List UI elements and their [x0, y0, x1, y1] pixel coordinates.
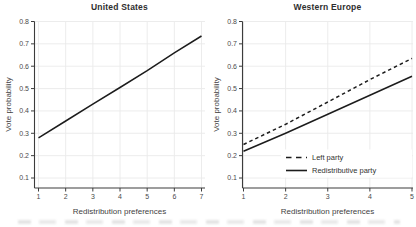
x-axis-label: Redistribution preferences — [34, 206, 205, 217]
y-tick-label: 0.6 — [227, 63, 237, 70]
plot-canvas-united-states: 12345670.10.20.30.40.50.60.70.8 — [0, 0, 208, 227]
legend-label: Redistributive party — [312, 166, 376, 175]
x-tick-label: 2 — [64, 193, 68, 200]
panel-united-states: 12345670.10.20.30.40.50.60.70.8 United S… — [0, 0, 208, 227]
y-tick-label: 0.1 — [227, 174, 237, 181]
panel-western-europe: Left partyRedistributive party123450.10.… — [208, 0, 416, 227]
x-tick-label: 6 — [172, 193, 176, 200]
x-tick-label: 3 — [326, 193, 330, 200]
x-axis-label: Redistribution preferences — [242, 206, 413, 217]
panel-title-united-states: United States — [34, 1, 205, 13]
y-tick-label: 0.6 — [19, 63, 29, 70]
y-tick-label: 0.1 — [19, 174, 29, 181]
y-tick-label: 0.4 — [19, 107, 29, 114]
x-tick-label: 1 — [37, 193, 41, 200]
x-tick-label: 3 — [91, 193, 95, 200]
two-panel-line-chart-figure: 12345670.10.20.30.40.50.60.70.8 United S… — [0, 0, 416, 227]
y-tick-label: 0.8 — [19, 18, 29, 25]
x-tick-label: 4 — [368, 193, 372, 200]
plot-canvas-western-europe: Left partyRedistributive party123450.10.… — [208, 0, 416, 227]
y-tick-label: 0.7 — [227, 40, 237, 47]
y-tick-label: 0.7 — [19, 40, 29, 47]
y-axis-label: Vote probability — [4, 77, 13, 132]
y-tick-label: 0.3 — [19, 130, 29, 137]
legend-label: Left party — [312, 153, 344, 162]
x-tick-label: 5 — [145, 193, 149, 200]
y-tick-label: 0.8 — [227, 18, 237, 25]
bottom-caption-artifact — [18, 220, 400, 224]
y-tick-label: 0.5 — [19, 85, 29, 92]
y-tick-label: 0.3 — [227, 130, 237, 137]
panel-title-western-europe: Western Europe — [242, 1, 413, 13]
y-tick-label: 0.4 — [227, 107, 237, 114]
y-tick-label: 0.2 — [227, 152, 237, 159]
y-axis-label-wrap: Vote probability — [208, 21, 224, 188]
y-axis-label: Vote probability — [212, 77, 221, 132]
y-tick-label: 0.2 — [19, 152, 29, 159]
x-tick-label: 4 — [118, 193, 122, 200]
y-axis-label-wrap: Vote probability — [0, 21, 16, 188]
x-tick-label: 5 — [410, 193, 414, 200]
x-tick-label: 7 — [200, 193, 204, 200]
x-tick-label: 2 — [284, 193, 288, 200]
y-tick-label: 0.5 — [227, 85, 237, 92]
x-tick-label: 1 — [242, 193, 246, 200]
